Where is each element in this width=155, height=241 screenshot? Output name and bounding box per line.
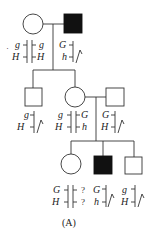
- allele-label: H: [36, 51, 45, 62]
- male-unaffected-II-1: [25, 88, 42, 106]
- chromosome-pair-III-3: g H: [120, 184, 144, 207]
- allele-label: g: [24, 109, 29, 120]
- allele-label: G: [53, 184, 60, 195]
- allele-label: H: [100, 121, 109, 132]
- male-unaffected-III-3: [125, 157, 142, 174]
- y-chromosome-icon: [118, 120, 124, 133]
- chromosome-pair-I-1: · g H g H: [6, 39, 45, 63]
- generation-2: [25, 70, 124, 141]
- allele-label: H: [120, 196, 129, 207]
- female-unaffected-III-1: [61, 154, 81, 174]
- allele-label: h: [94, 196, 99, 207]
- allele-label: g: [15, 39, 20, 50]
- female-unaffected-II-2: [65, 87, 85, 107]
- allele-label: H: [16, 121, 25, 132]
- chromosome-pair-II-3: G H: [100, 109, 124, 133]
- pedigree-diagram: · g H g H G h g H: [0, 0, 155, 241]
- female-unaffected-I-1: [23, 14, 43, 34]
- male-unaffected-II-3: [106, 88, 124, 106]
- chromosome-pair-III-2: G h: [93, 184, 114, 207]
- allele-label: G: [81, 109, 88, 120]
- male-affected-III-2: [94, 156, 112, 174]
- figure-caption: (A): [62, 217, 76, 229]
- allele-label: h: [82, 121, 87, 132]
- y-chromosome-icon: [37, 120, 43, 133]
- generation-3: [61, 141, 142, 174]
- allele-label: g: [39, 39, 44, 50]
- allele-label: G: [93, 184, 100, 195]
- chromosome-pair-II-1: g H: [16, 109, 43, 133]
- allele-label: g: [122, 184, 127, 195]
- allele-label: H: [11, 51, 20, 62]
- male-affected-I-2: [64, 14, 82, 33]
- dot-mark: ·: [6, 43, 9, 53]
- unknown-allele: ?: [81, 185, 85, 195]
- allele-label: H: [54, 121, 63, 132]
- allele-label: g: [58, 109, 63, 120]
- y-chromosome-icon: [138, 194, 144, 207]
- allele-label: H: [51, 196, 60, 207]
- chromosome-pair-I-2: G h: [59, 39, 82, 63]
- y-chromosome-icon: [76, 50, 82, 63]
- chromosome-pair-III-1: G H ? ?: [51, 184, 85, 208]
- allele-label: h: [62, 51, 67, 62]
- unknown-allele: ?: [81, 197, 85, 207]
- allele-label: G: [102, 109, 109, 120]
- allele-label: G: [59, 39, 66, 50]
- y-chromosome-icon: [108, 194, 114, 207]
- chromosome-pair-II-2: g H G h: [54, 109, 88, 133]
